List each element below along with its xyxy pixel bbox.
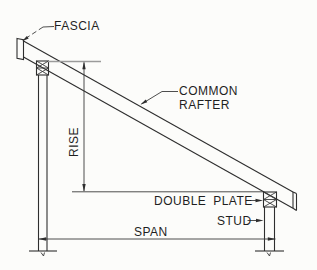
common-rafter-board <box>24 41 297 211</box>
left-stud-board <box>39 75 48 251</box>
rise-arrow-down-icon <box>82 184 85 192</box>
span-label: SPAN <box>134 225 168 239</box>
right-stud-board <box>265 207 275 251</box>
double-plate-label: DOUBLE PLATE <box>154 194 253 208</box>
rise-arrow-up-icon <box>82 62 85 70</box>
left-double-plate <box>37 61 49 75</box>
common-rafter-label-line1: COMMON <box>179 84 238 98</box>
common-rafter-label-line2: RAFTER <box>179 98 230 112</box>
stud-label: STUD <box>217 214 252 228</box>
right-double-plate <box>264 192 277 207</box>
double-plate-arrow-icon <box>256 199 264 202</box>
span-arrow-left-icon <box>39 237 47 240</box>
fascia-leader <box>22 27 54 42</box>
fascia-label: FASCIA <box>54 19 100 33</box>
ground-break-lines <box>29 251 284 256</box>
rise-label: RISE <box>67 112 81 172</box>
rafter-leader <box>141 92 179 105</box>
rafter-arrow-icon <box>141 100 148 105</box>
fascia-board <box>17 39 24 60</box>
framing-diagram: FASCIA COMMON RAFTER RISE DOUBLE PLATE S… <box>0 0 317 270</box>
stud-arrow-icon <box>256 219 264 222</box>
